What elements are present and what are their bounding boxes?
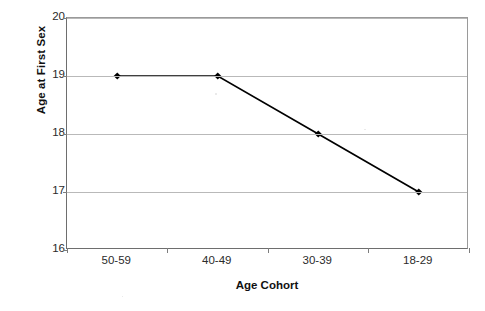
x-tick-label: 30-39 xyxy=(303,255,332,267)
gridline xyxy=(67,18,467,19)
x-tick-mark xyxy=(268,248,269,253)
gridline xyxy=(67,76,467,77)
y-tick-label: 19 xyxy=(39,69,65,81)
line-chart: Age at First Sex 1617181920 50-5940-4930… xyxy=(0,0,485,311)
x-tick-label: 18-29 xyxy=(403,255,432,267)
y-tick-label: 20 xyxy=(39,11,65,23)
gridline xyxy=(67,192,467,193)
scan-artifact xyxy=(364,129,366,130)
x-tick-mark xyxy=(67,248,68,253)
x-axis-title: Age Cohort xyxy=(66,279,468,291)
x-tick-label: 50-59 xyxy=(102,255,131,267)
gridline xyxy=(67,134,467,135)
scan-artifact xyxy=(122,296,123,297)
x-tick-mark xyxy=(167,248,168,253)
y-tick-mark xyxy=(63,18,67,19)
y-axis-tick-labels: 1617181920 xyxy=(39,0,65,311)
plot-area xyxy=(66,17,468,249)
y-tick-label: 16 xyxy=(39,243,65,255)
y-tick-mark xyxy=(63,134,67,135)
y-tick-label: 18 xyxy=(39,127,65,139)
y-tick-mark xyxy=(63,76,67,77)
x-tick-mark xyxy=(368,248,369,253)
scan-artifact xyxy=(215,93,217,95)
x-tick-label: 40-49 xyxy=(202,255,231,267)
x-tick-mark xyxy=(469,248,470,253)
y-tick-label: 17 xyxy=(39,185,65,197)
x-axis-tick-labels: 50-5940-4930-3918-29 xyxy=(66,255,468,271)
y-tick-mark xyxy=(63,192,67,193)
